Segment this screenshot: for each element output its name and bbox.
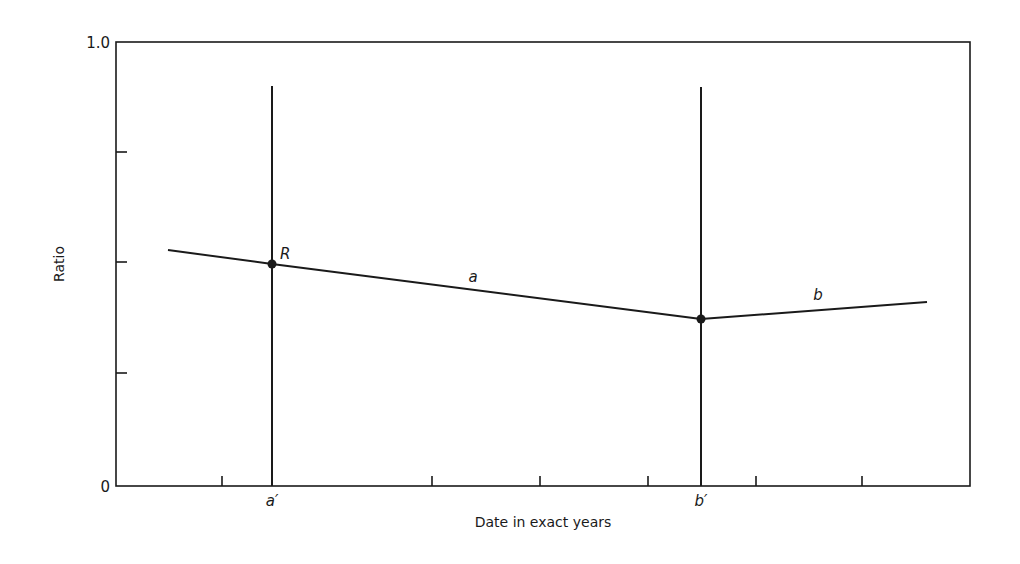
x-axis-title: Date in exact years bbox=[475, 514, 612, 530]
label-a-prime: a′ bbox=[266, 492, 279, 510]
chart: 1.0 0 Ratio Date in exact years a′ b′ R … bbox=[0, 0, 1020, 564]
y-tick-label-top: 1.0 bbox=[86, 34, 110, 52]
label-point-r: R bbox=[280, 245, 290, 263]
point-r-marker bbox=[268, 260, 277, 269]
y-tick-label-zero: 0 bbox=[100, 478, 110, 496]
chart-svg: 1.0 0 Ratio Date in exact years a′ b′ R … bbox=[0, 0, 1020, 564]
series-line-b bbox=[701, 302, 927, 319]
label-b-prime: b′ bbox=[695, 492, 709, 510]
label-line-a: a bbox=[468, 268, 477, 286]
label-line-b: b bbox=[813, 286, 823, 304]
point-b-prime-marker bbox=[697, 315, 706, 324]
series-line-a bbox=[168, 250, 701, 319]
y-axis-title: Ratio bbox=[51, 246, 67, 282]
plot-frame bbox=[116, 42, 970, 486]
x-axis-ticks bbox=[222, 476, 862, 486]
y-axis-ticks bbox=[116, 152, 127, 373]
